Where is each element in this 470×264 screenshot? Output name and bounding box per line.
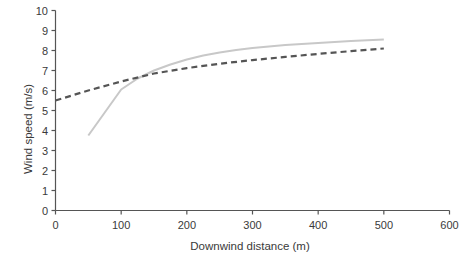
- x-tick-label: 500: [375, 219, 393, 231]
- plot-area: [0, 0, 470, 264]
- y-tick-label: 3: [24, 145, 48, 157]
- y-tick-label: 5: [24, 105, 48, 117]
- y-tick-label: 6: [24, 85, 48, 97]
- x-tick-label: 600: [440, 219, 458, 231]
- series-line-dashed-dark-gray: [56, 49, 384, 101]
- series-group: [56, 40, 384, 136]
- y-tick-label: 2: [24, 165, 48, 177]
- y-tick-label: 9: [24, 25, 48, 37]
- x-tick-label: 300: [243, 219, 261, 231]
- x-tick-label: 400: [309, 219, 327, 231]
- x-tick-label: 200: [178, 219, 196, 231]
- wind-speed-chart: Wind speed (m/s) Downwind distance (m) 0…: [0, 0, 470, 264]
- y-tick-label: 10: [24, 5, 48, 17]
- y-tick-label: 0: [24, 205, 48, 217]
- y-tick-label: 1: [24, 185, 48, 197]
- x-tick-label: 100: [112, 219, 130, 231]
- series-line-solid-light-gray: [88, 40, 384, 136]
- y-tick-label: 4: [24, 125, 48, 137]
- x-axis-title: Downwind distance (m): [190, 240, 310, 252]
- x-tick-label: 0: [52, 219, 58, 231]
- y-tick-label: 8: [24, 45, 48, 57]
- axes-group: [52, 11, 450, 215]
- y-tick-label: 7: [24, 65, 48, 77]
